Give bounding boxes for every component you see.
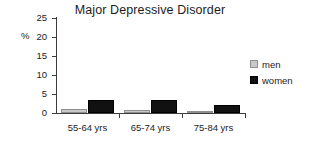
x-axis-tick-mark xyxy=(245,114,246,118)
y-axis-tick: 0 xyxy=(0,113,56,114)
y-axis-tick-label: 20 xyxy=(36,31,47,42)
bar-women-65-74-yrs xyxy=(151,100,177,113)
y-axis-tick: 5 xyxy=(0,94,56,95)
bar-women-55-64-yrs xyxy=(88,100,114,113)
x-axis-label-2: 65-74 yrs xyxy=(119,122,182,133)
y-axis-tick-label: 15 xyxy=(36,50,47,61)
legend-label: women xyxy=(262,75,293,86)
y-axis-tick-label: 25 xyxy=(36,12,47,23)
legend-swatch-men-icon xyxy=(250,60,258,68)
legend-item-women[interactable]: women xyxy=(250,73,293,87)
y-axis-tick-label: 10 xyxy=(36,69,47,80)
plot-area xyxy=(56,18,245,113)
bar-men-55-64-yrs xyxy=(61,109,87,113)
bar-chart-figure: Major Depressive Disorder % 0510152025 5… xyxy=(0,0,314,153)
y-axis-tick-mark xyxy=(52,113,57,114)
y-axis-tick: 10 xyxy=(0,75,56,76)
chart-legend: menwomen xyxy=(250,57,293,89)
x-axis-line xyxy=(56,113,246,114)
y-axis-tick: 25 xyxy=(0,18,56,19)
legend-item-men[interactable]: men xyxy=(250,57,293,71)
y-axis-tick: 15 xyxy=(0,56,56,57)
chart-title: Major Depressive Disorder xyxy=(55,3,245,17)
x-axis-tick-mark xyxy=(182,114,183,118)
x-axis-label-3: 75-84 yrs xyxy=(182,122,245,133)
y-axis-tick-label: 0 xyxy=(42,107,47,118)
bar-women-75-84-yrs xyxy=(214,105,240,113)
bar-men-65-74-yrs xyxy=(124,110,150,113)
legend-swatch-women-icon xyxy=(250,76,258,84)
bar-men-75-84-yrs xyxy=(187,111,213,113)
y-axis-tick: 20 xyxy=(0,37,56,38)
y-axis-tick-label: 5 xyxy=(42,88,47,99)
legend-label: men xyxy=(262,59,280,70)
y-axis-unit-label: % xyxy=(21,30,29,41)
x-axis-label-1: 55-64 yrs xyxy=(56,122,119,133)
x-axis-tick-mark xyxy=(119,114,120,118)
